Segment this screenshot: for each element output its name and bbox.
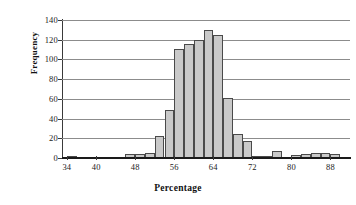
x-tick-label: 88 [326, 162, 335, 172]
x-tick-mark [330, 156, 331, 160]
bar [223, 98, 233, 158]
x-tick-mark [67, 156, 68, 160]
plot-area [62, 20, 350, 158]
x-tick-mark [252, 156, 253, 160]
histogram-chart: Frequency 020406080100120140 34404856647… [0, 0, 356, 205]
x-tick-label: 72 [248, 162, 257, 172]
y-tick-label: 20 [32, 133, 58, 143]
x-tick-mark [174, 156, 175, 160]
x-axis-label: Percentage [0, 183, 356, 193]
x-tick-label: 80 [287, 162, 296, 172]
x-axis-tick-labels: 3440485664728088 [62, 160, 350, 176]
gridline [62, 20, 350, 21]
bar [213, 35, 223, 158]
bar [174, 49, 184, 158]
x-tick-mark [135, 156, 136, 160]
bar [194, 40, 204, 158]
x-tick-mark [213, 156, 214, 160]
y-tick-label: 100 [32, 54, 58, 64]
y-axis-tick-labels: 020406080100120140 [28, 20, 58, 158]
bar [243, 141, 253, 158]
y-tick-label: 120 [32, 35, 58, 45]
y-tick-label: 60 [32, 94, 58, 104]
x-tick-label: 56 [170, 162, 179, 172]
bar [233, 134, 243, 158]
x-tick-label: 34 [62, 162, 71, 172]
bar [184, 44, 194, 158]
y-tick-label: 0 [32, 153, 58, 163]
x-axis-line [62, 157, 351, 159]
y-tick-label: 80 [32, 74, 58, 84]
y-tick-label: 40 [32, 114, 58, 124]
x-tick-mark [96, 156, 97, 160]
x-tick-label: 48 [131, 162, 140, 172]
y-tick-label: 140 [32, 15, 58, 25]
bar [165, 110, 175, 158]
x-tick-mark [291, 156, 292, 160]
bar [204, 30, 214, 158]
x-tick-label: 64 [209, 162, 218, 172]
x-tick-label: 40 [92, 162, 101, 172]
bar [155, 136, 165, 158]
